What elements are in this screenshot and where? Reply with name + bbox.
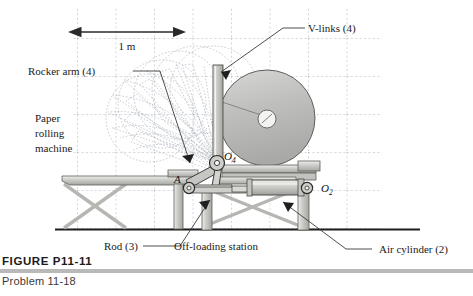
figure-page: 1 m V-links (4) Rocker arm (4) Paper rol… [0,0,473,296]
figure-number: FIGURE P11-11 [0,255,473,268]
v-link-post [213,65,223,165]
callout-offloading-station: Off-loading station [174,240,258,252]
callout-rod: Rod (3) [104,240,138,253]
callout-paper-machine-line3: machine [35,142,72,154]
figure-problem-ref: Problem 11-18 [0,275,473,287]
paper-roll [219,70,315,166]
caption-divider [0,269,473,273]
callout-paper-machine-line2: rolling [35,127,65,139]
dimension-label: 1 m [119,40,136,52]
callout-v-links: V-links (4) [308,22,356,35]
figure-caption-block: FIGURE P11-11 Problem 11-18 [0,255,473,287]
callout-paper-machine-line1: Paper [35,112,60,124]
callout-rocker-arm: Rocker arm (4) [28,65,96,78]
joint-label-a: A [173,173,181,185]
figure-illustration: 1 m V-links (4) Rocker arm (4) Paper rol… [0,0,473,258]
